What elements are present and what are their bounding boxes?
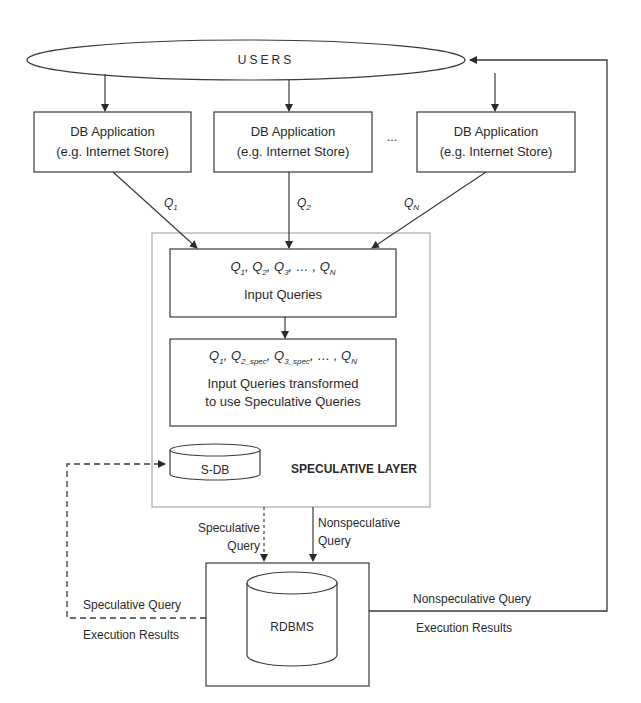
input-queries-label: Input Queries (170, 288, 396, 302)
speculative-query-line2: Query (180, 537, 260, 555)
apps-ellipsis: ... (387, 130, 397, 144)
qn-label: QN (404, 196, 419, 215)
q1-label: Q1 (164, 196, 178, 215)
app-3-label: DB Application (e.g. Internet Store) (417, 122, 575, 162)
spec-results-line2: Execution Results (83, 628, 179, 642)
q2-label: Q2 (297, 196, 311, 215)
nonspec-results-line1: Nonspeculative Query (413, 592, 531, 606)
transformed-line2: to use Speculative Queries (170, 393, 396, 411)
nonspec-results-line2: Execution Results (416, 621, 512, 635)
speculative-query-label: Speculative Query (180, 519, 260, 555)
app-2-label: DB Application (e.g. Internet Store) (214, 122, 372, 162)
arrow-q1 (113, 172, 197, 248)
speculative-query-line1: Speculative (180, 519, 260, 537)
rdbms-cylinder (247, 572, 337, 666)
app-1-line1: DB Application (34, 122, 191, 142)
app-2-line2: (e.g. Internet Store) (214, 142, 372, 162)
rdbms-label: RDBMS (247, 620, 337, 634)
transformed-line1: Input Queries transformed (170, 375, 396, 393)
app-1-line2: (e.g. Internet Store) (34, 142, 191, 162)
nonspeculative-query-line2: Query (318, 532, 400, 550)
input-queries-list: Q1, Q2, Q3, … , QN (170, 260, 396, 280)
app-3-line2: (e.g. Internet Store) (417, 142, 575, 162)
nonspeculative-query-label: Nonspeculative Query (318, 514, 400, 550)
app-1-label: DB Application (e.g. Internet Store) (34, 122, 191, 162)
speculative-layer-label: SPECULATIVE LAYER (291, 462, 417, 476)
transformed-label: Input Queries transformed to use Specula… (170, 375, 396, 411)
nonspeculative-query-line1: Nonspeculative (318, 514, 400, 532)
app-3-line1: DB Application (417, 122, 575, 142)
sdb-label: S-DB (170, 463, 260, 477)
app-2-line1: DB Application (214, 122, 372, 142)
transformed-queries-list: Q1, Q2_spec, Q3_spec, … , QN (170, 349, 396, 369)
users-label: USERS (226, 53, 306, 67)
spec-results-line1: Speculative Query (83, 598, 181, 612)
arrow-qn (372, 172, 486, 248)
